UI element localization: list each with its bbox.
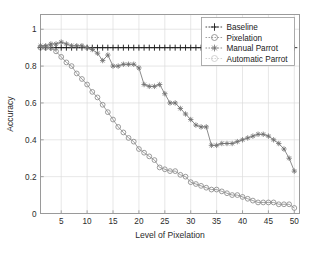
x-tick-label: 35 — [212, 217, 222, 226]
accuracy-vs-pixelation-chart: 00.20.40.60.81 5101520253035404550 Basel… — [0, 0, 311, 253]
x-tick-label: 50 — [290, 217, 300, 226]
y-tick-label: 1 — [32, 25, 37, 34]
legend-label: Automatic Parrot — [227, 55, 289, 64]
y-tick-label: 0.6 — [25, 99, 37, 108]
x-axis-title: Level of Pixelation — [135, 230, 205, 240]
x-tick-label: 30 — [186, 217, 196, 226]
x-tick-label: 10 — [83, 217, 93, 226]
legend-label: Pixelation — [227, 34, 263, 43]
y-tick-label: 0 — [32, 210, 37, 219]
x-tick-label: 15 — [108, 217, 118, 226]
y-axis-title: Accuracy — [5, 96, 15, 132]
y-tick-label: 0.2 — [25, 173, 37, 182]
chart-figure: 00.20.40.60.81 5101520253035404550 Basel… — [0, 0, 311, 253]
x-tick-label: 25 — [160, 217, 170, 226]
x-tick-label: 45 — [264, 217, 274, 226]
legend-label: Manual Parrot — [227, 44, 279, 53]
chart-legend[interactable]: BaselinePixelationManual ParrotAutomatic… — [202, 18, 295, 66]
legend-label: Baseline — [227, 23, 259, 32]
x-tick-label: 20 — [134, 217, 144, 226]
y-tick-label: 0.8 — [25, 62, 37, 71]
x-tick-label: 40 — [238, 217, 248, 226]
x-tick-label: 5 — [59, 217, 64, 226]
star-icon — [211, 45, 218, 52]
y-tick-label: 0.4 — [25, 136, 37, 145]
